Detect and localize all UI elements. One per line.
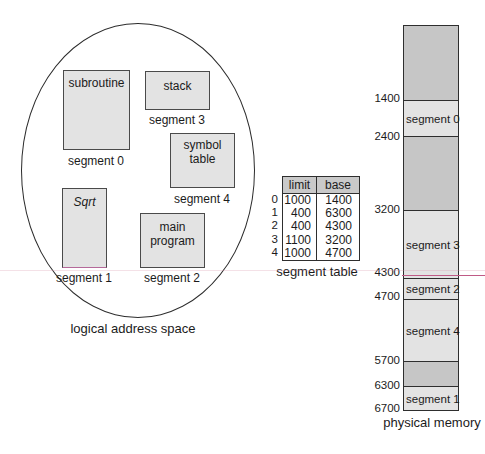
- segment-box-name: main program: [141, 221, 204, 267]
- segment-box-name: stack: [163, 80, 191, 109]
- segment-table-caption: segment table: [276, 264, 358, 279]
- base-value: 4700: [317, 247, 359, 260]
- segment-box-name: symbol table: [171, 139, 234, 187]
- address-label-5700: 5700: [360, 354, 400, 366]
- memory-segment-label: segment 3: [406, 239, 460, 251]
- memory-segment-2: segment 2: [404, 278, 458, 299]
- segment-table: limit base 1000 1400 400 6300 400 4300 1…: [282, 176, 360, 261]
- memory-segment-1: segment 1: [404, 386, 458, 410]
- segment-index: 0: [260, 193, 278, 206]
- column-header-limit: limit: [283, 177, 317, 193]
- address-label-4300: 4300: [360, 266, 400, 278]
- table-row: 1000 4700: [283, 247, 359, 260]
- segment-box-name: subroutine: [68, 77, 124, 149]
- free-memory-region: [404, 26, 458, 100]
- memory-segment-3: segment 3: [404, 210, 458, 278]
- segment-index: 4: [260, 246, 278, 259]
- pink-scan-line: [402, 275, 485, 276]
- base-value: 3200: [317, 234, 359, 247]
- segment-3-label: segment 3: [149, 113, 205, 127]
- segment-table-header-row: limit base: [283, 177, 359, 194]
- segment-index: 1: [260, 206, 278, 219]
- segment-4-label: segment 4: [174, 192, 230, 206]
- free-memory-region: [404, 361, 458, 386]
- segment-1-label: segment 1: [56, 271, 112, 285]
- memory-segment-label: segment 0: [406, 113, 460, 125]
- memory-segment-label: segment 1: [406, 393, 460, 405]
- segment-box-name: Sqrt: [73, 196, 95, 267]
- segment-box-sqrt: Sqrt: [62, 188, 107, 268]
- base-value: 4300: [317, 220, 359, 233]
- address-label-3200: 3200: [360, 203, 400, 215]
- segment-0-label: segment 0: [68, 154, 124, 168]
- segment-box-main-program: main program: [140, 213, 205, 268]
- logical-address-space-caption: logical address space: [70, 321, 195, 336]
- memory-segment-4: segment 4: [404, 299, 458, 361]
- memory-segment-0: segment 0: [404, 100, 458, 136]
- segmentation-figure: subroutine stack symbol table Sqrt main …: [0, 0, 485, 454]
- memory-segment-label: segment 4: [406, 325, 460, 337]
- physical-memory-caption: physical memory: [383, 415, 481, 430]
- free-memory-region: [404, 136, 458, 210]
- limit-value: 1100: [283, 234, 317, 247]
- segment-box-stack: stack: [145, 71, 210, 110]
- table-row: 1100 3200: [283, 234, 359, 247]
- address-label-6300: 6300: [360, 379, 400, 391]
- segment-box-subroutine: subroutine: [63, 70, 130, 150]
- memory-segment-label: segment 2: [406, 283, 460, 295]
- column-header-base: base: [317, 177, 359, 193]
- limit-value: 1000: [283, 247, 317, 260]
- address-label-1400: 1400: [360, 92, 400, 104]
- segment-index: 2: [260, 219, 278, 232]
- physical-memory-column: segment 0 segment 3 segment 2 segment 4 …: [403, 25, 459, 411]
- address-label-2400: 2400: [360, 130, 400, 142]
- address-label-6700: 6700: [360, 402, 400, 414]
- limit-value: 400: [283, 220, 317, 233]
- faint-scan-line: [0, 270, 485, 271]
- segment-2-label: segment 2: [144, 271, 200, 285]
- table-row: 400 4300: [283, 220, 359, 233]
- segment-table-index-column: 0 1 2 3 4: [260, 193, 278, 259]
- segment-box-symbol-table: symbol table: [170, 133, 235, 188]
- address-label-4700: 4700: [360, 290, 400, 302]
- segment-index: 3: [260, 233, 278, 246]
